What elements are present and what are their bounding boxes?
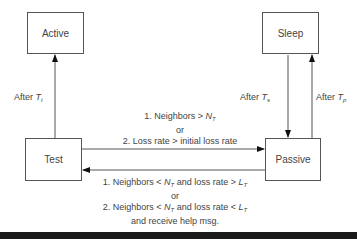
label-sub: T bbox=[212, 116, 216, 122]
state-active: Active bbox=[27, 12, 84, 54]
label-passive-to-test: 1. Neighbors < NT and loss rate > LT or … bbox=[80, 177, 270, 227]
state-passive-label: Passive bbox=[275, 154, 310, 165]
label-sub: t bbox=[41, 97, 43, 103]
label-sub: p bbox=[343, 97, 346, 103]
label-text: 2. Neighbors < bbox=[103, 202, 164, 212]
state-sleep-label: Sleep bbox=[278, 28, 304, 39]
label-text: 1. Neighbors > bbox=[144, 111, 205, 121]
label-text: After bbox=[240, 92, 262, 102]
state-passive: Passive bbox=[265, 138, 321, 181]
condition-line-2: 2. Neighbors < NT and loss rate < LT bbox=[80, 202, 270, 216]
label-sub: T bbox=[244, 182, 248, 188]
condition-line-2: 2. Loss rate > initial loss rate bbox=[96, 136, 264, 147]
label-text: After bbox=[316, 92, 338, 102]
state-sleep: Sleep bbox=[262, 12, 319, 54]
label-test-to-active: After Tt bbox=[14, 92, 43, 106]
state-active-label: Active bbox=[42, 28, 69, 39]
label-sleep-to-passive: After Ts bbox=[240, 92, 270, 106]
label-passive-to-sleep: After Tp bbox=[316, 92, 346, 106]
label-text: and loss rate < bbox=[174, 202, 238, 212]
state-test-label: Test bbox=[44, 154, 62, 165]
label-sub: s bbox=[267, 97, 270, 103]
label-text: After bbox=[14, 92, 36, 102]
label-sub: T bbox=[244, 207, 248, 213]
label-text: 1. Neighbors < bbox=[103, 177, 164, 187]
label-test-to-passive: 1. Neighbors > NT or 2. Loss rate > init… bbox=[96, 111, 264, 147]
condition-line-1: 1. Neighbors > NT bbox=[96, 111, 264, 125]
condition-or: or bbox=[96, 125, 264, 136]
condition-or: or bbox=[80, 191, 270, 202]
condition-line-1: 1. Neighbors < NT and loss rate > LT bbox=[80, 177, 270, 191]
condition-line-3: and receive help msg. bbox=[80, 216, 270, 227]
bottom-border-bar bbox=[0, 232, 357, 239]
state-test: Test bbox=[25, 138, 82, 181]
label-text: and loss rate > bbox=[174, 177, 238, 187]
